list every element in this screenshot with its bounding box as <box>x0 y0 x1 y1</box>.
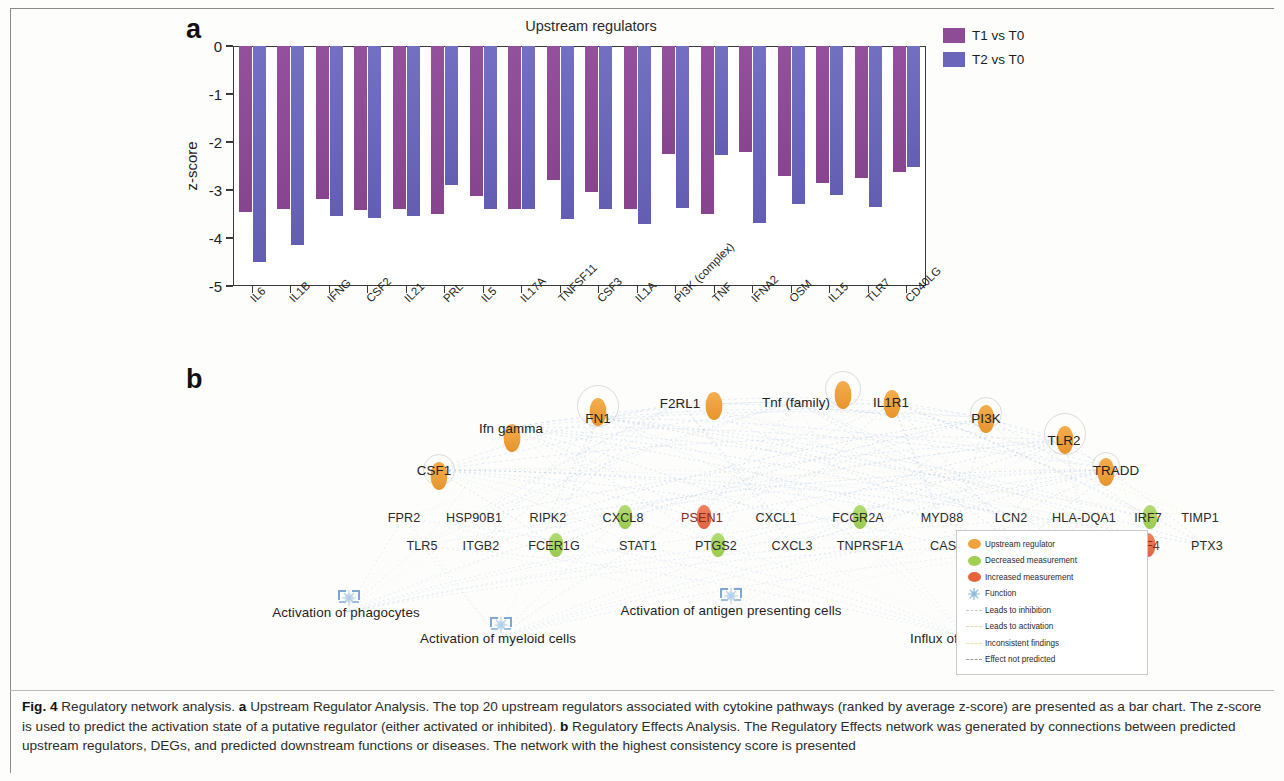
legend-function-icon <box>967 587 981 601</box>
legend-dot-icon <box>968 539 981 549</box>
network-edge <box>680 403 776 518</box>
bar-IFNA2-t1 <box>739 46 752 152</box>
network-edge <box>511 428 638 546</box>
bar-CSF2-t2 <box>368 46 381 218</box>
network-edge <box>891 402 942 518</box>
chart-legend-swatch <box>943 28 965 43</box>
gene-label-irf7[interactable]: IRF7 <box>1134 511 1162 525</box>
legend-line-icon <box>966 643 982 644</box>
gene-label-ptx3[interactable]: PTX3 <box>1191 539 1223 553</box>
bar-CD40LG-t2 <box>907 46 920 167</box>
network-edge <box>858 518 968 638</box>
bar-TLR7-t2 <box>869 46 882 207</box>
bar-IL5-t1 <box>470 46 483 196</box>
function-label-activationofphagocytes: Activation of phagocytes <box>272 605 420 620</box>
y-tick <box>226 45 233 47</box>
chart-title: Upstream regulators <box>426 18 756 34</box>
network-legend-label: Inconsistent findings <box>985 639 1059 648</box>
gene-label-cxcl3[interactable]: CXCL3 <box>771 539 812 553</box>
caption-divider-rule <box>10 690 1274 691</box>
chart-plot-area: z-score 0-1-2-3-4-5 IL6IL1BIFNGCSF2IL21P… <box>233 46 926 286</box>
bar-IFNG-t1 <box>316 46 329 199</box>
network-edge <box>434 403 680 470</box>
network-edge <box>638 546 968 638</box>
bar-TNF-t1 <box>701 46 714 214</box>
network-edge <box>434 470 554 546</box>
network-legend: Upstream regulatorDecreased measurementI… <box>956 530 1148 675</box>
legend-icon-line <box>963 659 985 660</box>
bar-TNFSF11-t1 <box>547 46 560 180</box>
bar-IL21-t1 <box>393 46 406 209</box>
gene-label-ripk2[interactable]: RIPK2 <box>530 511 567 525</box>
gene-label-itgb2[interactable]: ITGB2 <box>463 539 500 553</box>
network-edge <box>554 418 598 546</box>
caption-b-tag: b <box>560 719 568 734</box>
network-edge <box>731 518 858 610</box>
gene-label-tnprsf1a[interactable]: TNPRSF1A <box>837 539 904 553</box>
network-legend-item: Upstream regulator <box>963 536 1141 553</box>
bar-IL6-t1 <box>239 46 252 212</box>
network-edge <box>422 546 498 638</box>
bar-IL1A-t1 <box>624 46 637 209</box>
x-tick-label: IFNA2 <box>749 273 781 305</box>
bar-TNFSF11-t2 <box>561 46 574 219</box>
legend-line-icon <box>966 659 982 660</box>
gene-label-ptgs2[interactable]: PTGS2 <box>695 539 737 553</box>
gene-label-fcgr2a[interactable]: FCGR2A <box>832 511 884 525</box>
bar-IL15-t1 <box>816 46 829 183</box>
network-edge <box>598 409 986 418</box>
chart-legend-item: T1 vs T0 <box>943 28 1024 43</box>
network-legend-label: Leads to activation <box>985 622 1053 631</box>
y-tick <box>226 285 233 287</box>
network-edge <box>434 437 1064 470</box>
function-label-activationofantigenpresentingcells: Activation of antigen presenting cells <box>620 603 841 618</box>
legend-dot-icon <box>968 556 981 566</box>
network-legend-item: Function <box>963 586 1141 603</box>
bar-IL5-t2 <box>484 46 497 209</box>
bar-IL15-t2 <box>830 46 843 195</box>
function-label-activationofmyeloidcells: Activation of myeloid cells <box>420 631 576 646</box>
regulator-node-tnffamily[interactable] <box>835 381 852 409</box>
network-legend-label: Function <box>985 589 1016 598</box>
bar-IL6-t2 <box>253 46 266 262</box>
gene-label-hladqa1[interactable]: HLA-DQA1 <box>1052 511 1116 525</box>
gene-label-timp1[interactable]: TIMP1 <box>1181 511 1219 525</box>
gene-label-fcer1g[interactable]: FCER1G <box>528 539 580 553</box>
gene-label-stat1[interactable]: STAT1 <box>619 539 657 553</box>
gene-label-cxcl1[interactable]: CXCL1 <box>755 511 796 525</box>
bar-PRL-t1 <box>431 46 444 214</box>
network-edge <box>434 470 951 546</box>
bar-TLR7-t1 <box>855 46 868 178</box>
network-edge <box>598 418 1116 470</box>
bar-IFNA2-t2 <box>753 46 766 223</box>
y-tick-label: -4 <box>209 230 222 247</box>
gene-label-hsp90b1[interactable]: HSP90B1 <box>446 511 502 525</box>
network-legend-item: Decreased measurement <box>963 553 1141 570</box>
regulator-node-f2rl1[interactable] <box>706 392 723 420</box>
network-edge <box>731 402 796 610</box>
gene-label-fpr2[interactable]: FPR2 <box>388 511 421 525</box>
regulator-label-pi3k: PI3K <box>971 411 1000 426</box>
gene-label-lcn2[interactable]: LCN2 <box>995 511 1028 525</box>
network-legend-item: Leads to activation <box>963 619 1141 636</box>
x-tick-label: TLR7 <box>864 276 892 304</box>
network-legend-label: Decreased measurement <box>985 556 1077 565</box>
y-tick-label: -1 <box>209 86 222 103</box>
chart-legend: T1 vs T0T2 vs T0 <box>943 28 1024 76</box>
network-legend-item: Inconsistent findings <box>963 635 1141 652</box>
network-diagram: Ifn gammaCSF1FN1F2RL1Tnf (family)IL1R1PI… <box>186 360 1266 685</box>
legend-icon-dot <box>963 556 985 566</box>
network-edge <box>511 428 702 518</box>
y-tick-label: 0 <box>214 38 222 55</box>
network-edge <box>346 546 638 612</box>
gene-label-cxcl8[interactable]: CXCL8 <box>602 511 643 525</box>
network-edge <box>346 518 623 612</box>
bar-CD40LG-t1 <box>893 46 906 172</box>
gene-label-myd88[interactable]: MYD88 <box>921 511 964 525</box>
gene-label-tlr5[interactable]: TLR5 <box>406 539 437 553</box>
legend-icon-function <box>963 587 985 601</box>
gene-label-psen1[interactable]: PSEN1 <box>681 511 723 525</box>
bar-IL1A-t2 <box>638 46 651 224</box>
y-axis-title: z-score <box>183 141 200 190</box>
network-edge <box>598 418 1011 518</box>
